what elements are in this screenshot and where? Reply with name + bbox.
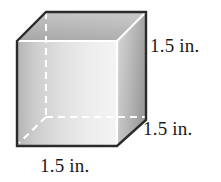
cube-front-face: [17, 41, 117, 146]
cube-drawing: [0, 0, 221, 182]
dimension-label-height: 1.5 in.: [150, 36, 199, 55]
cube-figure: 1.5 in. 1.5 in. 1.5 in.: [0, 0, 221, 182]
dimension-label-width: 1.5 in.: [40, 156, 89, 175]
dimension-label-depth: 1.5 in.: [143, 119, 192, 138]
